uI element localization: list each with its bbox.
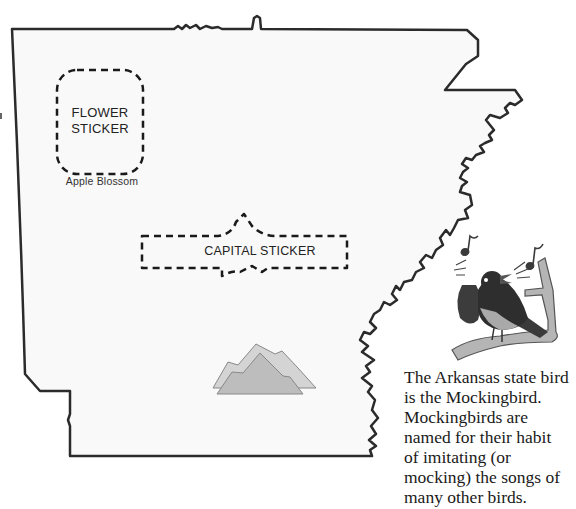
mockingbird-icon [452, 258, 557, 360]
flower-sticker-line1: FLOWER [72, 105, 129, 120]
fact-line: mocking) the songs of [404, 467, 576, 487]
capital-sticker-label: CAPITAL STICKER [160, 244, 360, 258]
fact-line: of imitating (or [404, 447, 576, 467]
fact-line: Mockingbirds are [404, 407, 576, 427]
flower-sticker-line2: STICKER [71, 121, 129, 136]
flower-caption: Apple Blossom [48, 175, 156, 187]
fact-line: is the Mockingbird. [404, 387, 576, 407]
fact-line: many other birds. [404, 487, 576, 507]
fact-line: The Arkansas state bird [404, 367, 576, 387]
state-bird-fact: The Arkansas state bird is the Mockingbi… [404, 367, 576, 507]
flower-sticker-label: FLOWER STICKER [54, 105, 146, 137]
music-note-icon [460, 236, 543, 271]
fact-line: named for their habit [404, 427, 576, 447]
